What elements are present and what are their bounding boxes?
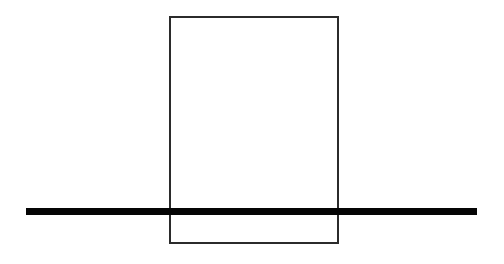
horizontal-thick-bar-shape (26, 208, 477, 215)
canvas-background (0, 0, 504, 264)
figure-svg (0, 0, 504, 264)
diagram-canvas (0, 0, 504, 264)
